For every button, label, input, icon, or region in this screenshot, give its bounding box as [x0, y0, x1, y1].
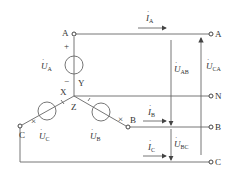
polarity-mark-c: × — [31, 117, 36, 126]
source-voltage-ub: ·UB — [90, 132, 101, 142]
terminal-c-out — [209, 160, 213, 164]
line-voltage-ubc: ·UBC — [174, 140, 189, 150]
minus-sign: − — [64, 77, 69, 86]
terminal-a-source — [72, 32, 76, 36]
polarity-mark-b: × — [118, 115, 123, 124]
terminal-b-out — [209, 125, 213, 129]
current-label-ia: ·IA — [146, 14, 153, 24]
source-voltage-ua: ·UA — [41, 62, 52, 72]
node-label-b-source: B — [130, 116, 136, 125]
terminal-c-source — [18, 124, 22, 128]
circuit-diagram: A + − Y X Z C B × × A N B C ·UA ·UC ·UB … — [0, 0, 236, 181]
line-voltage-uab: ·UAB — [174, 65, 189, 75]
plus-sign: + — [64, 42, 69, 51]
node-label-a-out: A — [215, 30, 222, 39]
source-voltage-uc: ·UC — [39, 132, 50, 142]
terminal-a-out — [209, 32, 213, 36]
current-label-ic: ·IC — [148, 143, 155, 153]
current-label-ib: ·IB — [148, 108, 155, 118]
node-label-b-out: B — [215, 123, 221, 132]
node-label-y: Y — [78, 79, 85, 88]
node-label-x: X — [60, 88, 67, 97]
node-label-a-source: A — [62, 29, 69, 38]
node-label-c-source: C — [19, 131, 25, 140]
line-voltage-uca: ·UCA — [206, 62, 221, 72]
node-label-n-out: N — [215, 92, 222, 101]
node-label-z: Z — [71, 103, 77, 112]
terminal-b-source — [126, 125, 130, 129]
circuit-wires — [0, 0, 236, 181]
node-label-c-out: C — [215, 158, 221, 167]
terminal-n-out — [209, 94, 213, 98]
